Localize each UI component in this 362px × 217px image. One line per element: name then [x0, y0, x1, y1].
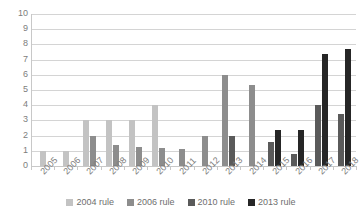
- x-axis-tick-mark: [54, 166, 55, 170]
- x-axis-tick-mark: [310, 166, 311, 170]
- y-axis-line: [31, 14, 32, 167]
- legend-label: 2010 rule: [198, 198, 236, 207]
- bar: [315, 105, 321, 166]
- legend-label: 2004 rule: [76, 198, 114, 207]
- y-axis-tick-label: 7: [2, 55, 28, 64]
- bar: [129, 120, 135, 166]
- bar: [222, 75, 228, 166]
- x-axis-tick-mark: [240, 166, 241, 170]
- chart-legend: 2004 rule2006 rule2010 rule2013 rule: [0, 198, 362, 207]
- x-axis-tick-mark: [77, 166, 78, 170]
- y-axis-tick-label: 6: [2, 70, 28, 79]
- legend-item[interactable]: 2010 rule: [188, 198, 236, 207]
- bar-group: [240, 14, 263, 166]
- y-axis-tick-label: 2: [2, 131, 28, 140]
- bar-group: [124, 14, 147, 166]
- y-axis-tick-label: 10: [2, 9, 28, 18]
- bar-group: [286, 14, 309, 166]
- bar-group: [147, 14, 170, 166]
- y-axis-tick-label: 1: [2, 146, 28, 155]
- legend-label: 2006 rule: [137, 198, 175, 207]
- bar: [338, 114, 344, 166]
- legend-swatch-icon: [248, 199, 255, 206]
- bar: [322, 54, 328, 166]
- legend-item[interactable]: 2004 rule: [66, 198, 114, 207]
- y-axis-tick-label: 3: [2, 115, 28, 124]
- y-axis-tick-label: 4: [2, 100, 28, 109]
- y-axis-tick-label: 8: [2, 39, 28, 48]
- x-axis-tick-mark: [263, 166, 264, 170]
- bar-group: [31, 14, 54, 166]
- bar-group: [333, 14, 356, 166]
- y-axis-tick-label: 0: [2, 161, 28, 170]
- x-axis-tick-mark: [170, 166, 171, 170]
- x-axis-tick-mark: [286, 166, 287, 170]
- legend-swatch-icon: [127, 199, 134, 206]
- x-axis-tick-mark: [124, 166, 125, 170]
- bar: [345, 49, 351, 166]
- bar: [268, 142, 274, 166]
- y-axis-tick-label: 5: [2, 85, 28, 94]
- x-axis-tick-mark: [101, 166, 102, 170]
- bar-group: [54, 14, 77, 166]
- x-axis-tick-mark: [147, 166, 148, 170]
- bar: [249, 85, 255, 166]
- legend-label: 2013 rule: [258, 198, 296, 207]
- x-axis-tick-mark: [31, 166, 32, 170]
- bar-group: [77, 14, 100, 166]
- y-axis-tick-labels: 012345678910: [0, 0, 28, 180]
- bar: [83, 120, 89, 166]
- legend-swatch-icon: [66, 199, 73, 206]
- bar: [152, 105, 158, 166]
- bar-chart: 012345678910 200520062007200820092010201…: [0, 0, 362, 217]
- bar-group: [101, 14, 124, 166]
- x-axis-tick-mark: [333, 166, 334, 170]
- bar-group: [217, 14, 240, 166]
- x-axis-tick-mark: [194, 166, 195, 170]
- bar-group: [310, 14, 333, 166]
- x-axis-tick-mark: [217, 166, 218, 170]
- bar: [106, 120, 112, 166]
- plot-area: [31, 14, 356, 166]
- legend-item[interactable]: 2006 rule: [127, 198, 175, 207]
- y-axis-tick-label: 9: [2, 24, 28, 33]
- x-axis-tick-mark: [356, 166, 357, 170]
- bar-group: [263, 14, 286, 166]
- legend-item[interactable]: 2013 rule: [248, 198, 296, 207]
- legend-swatch-icon: [188, 199, 195, 206]
- bar-group: [194, 14, 217, 166]
- bar-group: [170, 14, 193, 166]
